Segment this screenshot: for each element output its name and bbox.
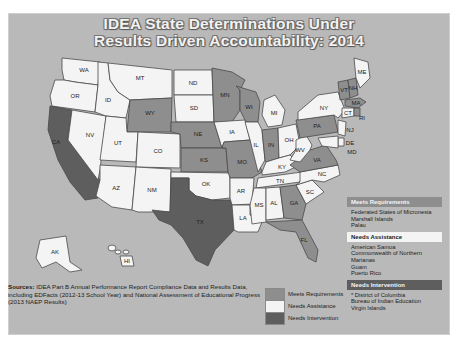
state-label-pa: PA — [313, 123, 321, 129]
territory-item: Palau — [347, 222, 442, 229]
state-label-de: DE — [346, 140, 354, 146]
state-label-wi: WI — [245, 104, 253, 110]
state-label-ne: NE — [194, 131, 202, 137]
state-label-mn: MN — [220, 92, 229, 98]
state-label-md: MD — [347, 149, 357, 155]
state-label-ok: OK — [202, 181, 211, 187]
territory-heading-intervention: Needs Intervention — [347, 280, 442, 290]
territory-group-intervention: Needs Intervention * District of Columbi… — [347, 280, 442, 312]
state-label-ma: MA — [352, 100, 361, 106]
state-de — [338, 138, 344, 146]
legend-item-assistance: Needs Assistance — [265, 300, 355, 312]
state-label-id: ID — [105, 97, 112, 103]
state-label-nj: NJ — [346, 127, 353, 133]
state-label-al: AL — [270, 200, 278, 206]
state-label-nh: NH — [349, 85, 358, 91]
state-label-tn: TN — [276, 178, 284, 184]
state-label-wy: WY — [145, 110, 155, 116]
state-label-ms: MS — [255, 202, 264, 208]
territory-item: Guam — [347, 264, 442, 271]
state-label-ar: AR — [237, 188, 246, 194]
state-fl — [266, 220, 318, 262]
state-label-oh: OH — [285, 137, 294, 143]
state-label-wa: WA — [79, 67, 88, 73]
state-label-nv: NV — [86, 132, 94, 138]
territory-heading-meets: Meets Requirements — [347, 197, 442, 207]
state-label-ia: IA — [229, 129, 235, 135]
territory-item: Federated States of Micronesia — [347, 209, 442, 216]
legend: Meets Requirements Needs Assistance Need… — [265, 288, 355, 324]
territory-item: Bureau of Indian Education — [347, 298, 442, 305]
territory-item: Commonwealth of Northern Marianas — [347, 250, 442, 263]
legend-item-intervention: Needs Intervention — [265, 312, 355, 324]
state-label-ct: CT — [344, 110, 352, 116]
state-label-nd: ND — [189, 80, 198, 86]
state-label-ky: KY — [278, 164, 286, 170]
hawaii-island — [108, 245, 116, 251]
state-label-la: LA — [239, 215, 246, 221]
territory-group-assistance: Needs Assistance American Samoa Commonwe… — [347, 232, 442, 277]
state-label-me: ME — [358, 69, 367, 75]
state-label-wv: WV — [295, 147, 305, 153]
territory-item: Puerto Rico — [347, 270, 442, 277]
state-label-nm: NM — [147, 187, 156, 193]
state-label-in: IN — [268, 142, 274, 148]
territory-item: American Samoa — [347, 244, 442, 251]
state-label-or: OR — [71, 93, 81, 99]
state-label-vt: VT — [340, 87, 348, 93]
state-label-co: CO — [154, 148, 163, 154]
state-label-ks: KS — [200, 157, 208, 163]
state-label-ri: RI — [359, 115, 365, 121]
state-label-ny: NY — [320, 105, 328, 111]
hawaii-island — [115, 250, 121, 254]
territory-item: Marshall Islands — [347, 216, 442, 223]
legend-item-meets: Meets Requirements — [265, 288, 355, 300]
state-label-tx: TX — [196, 219, 204, 225]
state-label-mt: MT — [136, 75, 145, 81]
state-label-az: AZ — [112, 185, 120, 191]
territory-item: * District of Columbia — [347, 292, 442, 299]
state-label-mo: MO — [237, 159, 247, 165]
state-label-il: IL — [253, 142, 259, 148]
state-label-nc: NC — [318, 171, 327, 177]
legend-swatch-intervention — [265, 312, 285, 325]
sources-text: IDEA Part B Annual Performance Report Co… — [8, 283, 260, 305]
state-label-sd: SD — [190, 105, 199, 111]
state-label-hi: HI — [124, 258, 130, 264]
state-nj — [338, 120, 346, 136]
state-label-mi: MI — [271, 110, 278, 116]
territory-heading-assistance: Needs Assistance — [347, 232, 442, 242]
state-label-ut: UT — [114, 140, 122, 146]
hawaii-island — [123, 250, 129, 254]
territory-group-meets: Meets Requirements Federated States of M… — [347, 197, 442, 229]
state-label-va: VA — [313, 157, 321, 163]
state-label-ca: CA — [52, 139, 60, 145]
territory-item: Virgin Islands — [347, 305, 442, 312]
territories-panel: Meets Requirements Federated States of M… — [347, 197, 442, 315]
state-label-ga: GA — [290, 200, 299, 206]
state-label-ak: AK — [51, 249, 59, 255]
state-label-fl: FL — [300, 237, 308, 243]
legend-label-assistance: Needs Assistance — [288, 303, 336, 309]
sources-note: Sources: IDEA Part B Annual Performance … — [8, 283, 263, 306]
legend-label-intervention: Needs Intervention — [288, 315, 338, 321]
sources-label: Sources: — [8, 283, 34, 290]
legend-label-meets: Meets Requirements — [288, 291, 343, 297]
state-label-sc: SC — [306, 189, 315, 195]
